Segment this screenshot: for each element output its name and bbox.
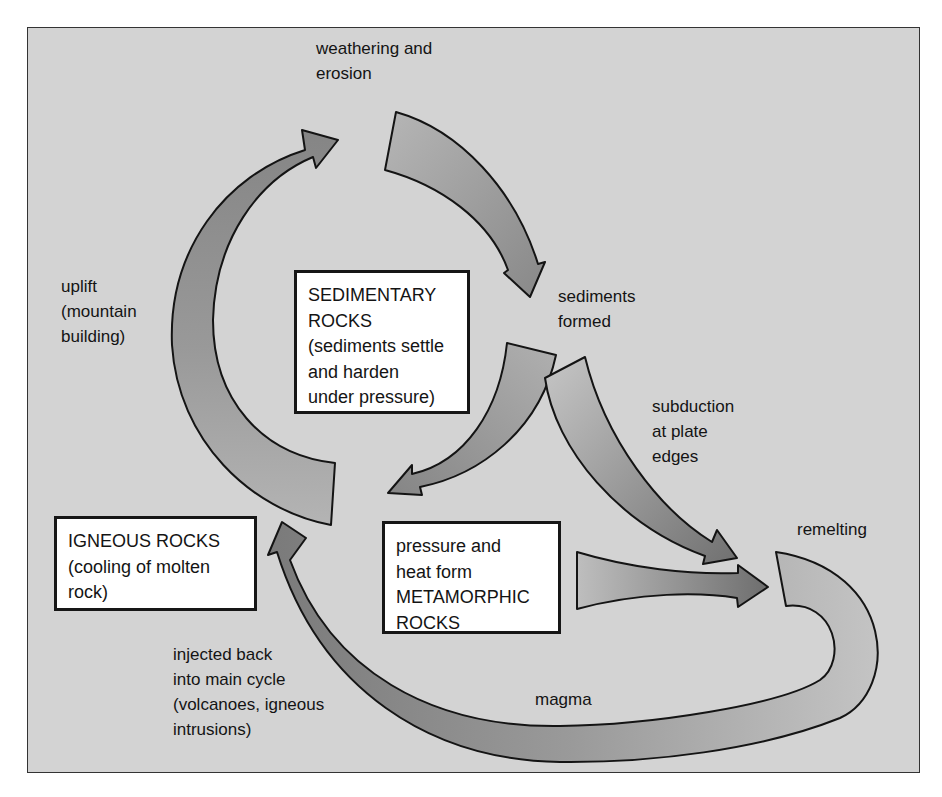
label-injected: injected back into main cycle (volcanoes… [173, 642, 324, 742]
rock-cycle-arrows [0, 0, 942, 797]
sedimentary-rocks-box: SEDIMENTARY ROCKS (sediments settle and … [294, 270, 470, 414]
label-magma: magma [535, 687, 592, 712]
label-uplift: uplift (mountain building) [61, 274, 137, 349]
label-subduction: subduction at plate edges [652, 394, 734, 469]
label-remelting: remelting [797, 517, 867, 542]
label-sediments-formed: sediments formed [558, 284, 635, 334]
metamorphic-arrow [577, 552, 768, 609]
metamorphic-rocks-box: pressure and heat form METAMORPHIC ROCKS [382, 521, 561, 634]
label-weathering: weathering and erosion [316, 36, 432, 86]
igneous-rocks-box: IGNEOUS ROCKS (cooling of molten rock) [54, 516, 257, 611]
magma-arrow [268, 522, 878, 762]
